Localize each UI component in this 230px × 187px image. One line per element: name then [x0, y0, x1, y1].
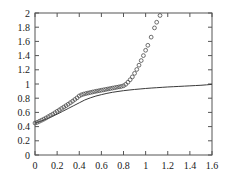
x-tick-label: 0.2	[51, 160, 64, 171]
x-tick-label: 0	[33, 160, 38, 171]
y-tick-label: 1.8	[18, 22, 31, 33]
y-tick-label: 0.8	[18, 93, 31, 104]
y-tick-label: 1.6	[18, 36, 31, 47]
x-tick-label: 0.8	[117, 160, 130, 171]
x-tick-label: 0.4	[73, 160, 86, 171]
x-tick-label: 1	[143, 160, 148, 171]
y-tick-label: 0	[25, 150, 30, 161]
x-tick-label: 1.4	[184, 160, 197, 171]
y-tick-label: 0.2	[18, 135, 31, 146]
x-tick-label: 1.6	[206, 160, 219, 171]
x-tick-label: 1.2	[162, 160, 175, 171]
y-tick-label: 0.4	[18, 121, 31, 132]
y-tick-label: 0.6	[18, 107, 31, 118]
y-tick-label: 1	[25, 79, 30, 90]
y-tick-label: 2	[25, 8, 30, 19]
x-tick-label: 0.6	[95, 160, 108, 171]
chart-plot: 00.20.40.60.811.21.41.61.82 00.20.40.60.…	[0, 0, 230, 187]
x-axis-tick-labels: 00.20.40.60.811.21.41.6	[33, 160, 219, 171]
y-tick-label: 1.2	[18, 64, 31, 75]
y-tick-label: 1.4	[18, 50, 31, 61]
chart-figure: 00.20.40.60.811.21.41.61.82 00.20.40.60.…	[0, 0, 230, 187]
